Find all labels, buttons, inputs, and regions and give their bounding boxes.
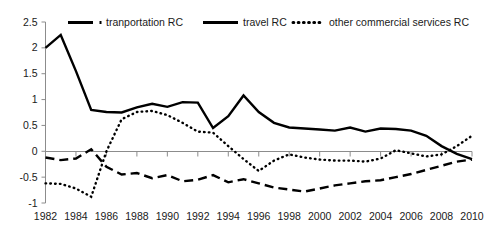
x-axis-tick-label: 2006 bbox=[399, 210, 423, 222]
y-axis: 2.521.510.50-0.5-1 bbox=[19, 16, 45, 209]
y-axis-tick-label: 1 bbox=[32, 93, 38, 105]
x-axis-tick-labels: 1982198419861988199019921994199619982000… bbox=[34, 210, 484, 222]
chart-canvas: tranportation RC travel RC other commerc… bbox=[0, 0, 484, 232]
x-axis-tick-label: 1994 bbox=[217, 210, 241, 222]
legend-item-travel: travel RC bbox=[203, 16, 287, 28]
x-axis-tick-label: 1998 bbox=[278, 210, 302, 222]
y-axis-ticks bbox=[42, 22, 46, 203]
x-axis-tick-label: 1992 bbox=[186, 210, 210, 222]
y-axis-tick-label: -0.5 bbox=[19, 171, 37, 183]
chart-legend: tranportation RC travel RC other commerc… bbox=[68, 16, 469, 28]
chart-series bbox=[46, 35, 473, 197]
y-axis-tick-label: 0 bbox=[32, 145, 38, 157]
x-axis-tick-label: 1982 bbox=[34, 210, 58, 222]
x-axis-tick-label: 2000 bbox=[308, 210, 332, 222]
y-axis-tick-label: 2 bbox=[32, 41, 38, 53]
y-axis-tick-label: -1 bbox=[28, 197, 37, 209]
series-line-travel bbox=[46, 35, 473, 159]
legend-item-transportation: tranportation RC bbox=[68, 16, 183, 28]
x-axis-tick-label: 2002 bbox=[338, 210, 362, 222]
legend-item-other-commercial-services: other commercial services RC bbox=[293, 16, 469, 28]
legend-label-transportation: tranportation RC bbox=[106, 16, 183, 28]
y-axis-tick-label: 2.5 bbox=[23, 16, 38, 28]
line-chart: tranportation RC travel RC other commerc… bbox=[0, 0, 484, 232]
x-axis-tick-label: 1988 bbox=[125, 210, 149, 222]
x-axis-tick-label: 1984 bbox=[64, 210, 88, 222]
y-axis-tick-labels: 2.521.510.50-0.5-1 bbox=[19, 16, 37, 209]
legend-label-travel: travel RC bbox=[243, 16, 287, 28]
x-axis-tick-label: 2004 bbox=[369, 210, 393, 222]
x-axis-tick-label: 2008 bbox=[430, 210, 454, 222]
y-axis-tick-label: 0.5 bbox=[23, 119, 38, 131]
x-axis-tick-label: 1996 bbox=[247, 210, 271, 222]
x-axis-tick-label: 2010 bbox=[460, 210, 484, 222]
x-axis-tick-label: 1990 bbox=[156, 210, 180, 222]
x-axis-tick-label: 1986 bbox=[95, 210, 119, 222]
legend-label-other-commercial-services: other commercial services RC bbox=[329, 16, 469, 28]
y-axis-tick-label: 1.5 bbox=[23, 67, 38, 79]
